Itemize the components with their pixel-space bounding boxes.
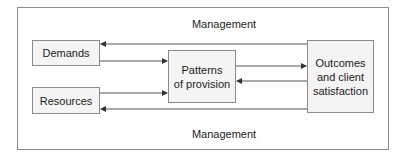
node-outcomes-label-line2: and client [317, 70, 364, 84]
node-resources: Resources [32, 87, 100, 114]
node-patterns-of-provision: Patterns of provision [168, 50, 236, 103]
node-outcomes-label-line3: satisfaction [313, 84, 368, 98]
node-outcomes-label-line1: Outcomes [315, 56, 365, 70]
node-patterns-label-line2: of provision [174, 77, 230, 91]
node-outcomes-and-client-satisfaction: Outcomes and client satisfaction [307, 40, 374, 113]
node-patterns-label-line1: Patterns [182, 63, 223, 77]
node-demands: Demands [32, 40, 100, 66]
node-resources-label: Resources [40, 94, 93, 108]
node-demands-label: Demands [42, 46, 89, 60]
